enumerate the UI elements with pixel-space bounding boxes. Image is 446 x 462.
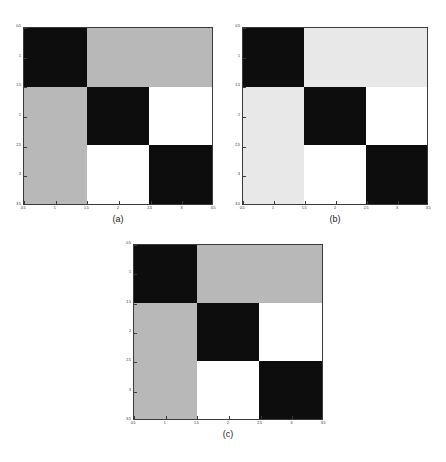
heatmap-cell-a-r3c2 xyxy=(87,145,150,204)
heatmap-cell-c-r1c3 xyxy=(259,245,322,303)
ytick-a-3 xyxy=(24,117,27,118)
ytick-label-b-2: 1.5 xyxy=(232,85,240,89)
ytick-label-b-0: 0.5 xyxy=(232,25,240,29)
ytick-c-1 xyxy=(134,274,137,275)
axes-b xyxy=(242,27,428,205)
ytick-label-c-0: 0.5 xyxy=(123,242,131,246)
xtick-b-4 xyxy=(367,201,368,204)
heatmap-cell-b-r3c3 xyxy=(366,145,427,204)
heatmap-cell-a-r2c1 xyxy=(24,87,87,146)
heatmap-grid-b xyxy=(243,28,427,204)
figure-canvas: (a) 0.511.522.533.50.511.522.533.5 (b) 0… xyxy=(0,0,446,462)
ytick-label-c-3: 2 xyxy=(123,330,131,334)
ytick-label-a-0: 0.5 xyxy=(13,25,21,29)
ytick-label-c-5: 3 xyxy=(123,389,131,393)
ytick-label-a-3: 2 xyxy=(13,114,21,118)
heatmap-cell-a-r2c2 xyxy=(87,87,150,146)
caption-c: (c) xyxy=(133,430,323,439)
heatmap-cell-c-r3c2 xyxy=(197,361,260,419)
heatmap-cell-c-r1c1 xyxy=(134,245,197,303)
heatmap-cell-a-r1c1 xyxy=(24,28,87,87)
xtick-label-a-6: 3.5 xyxy=(211,207,216,211)
ytick-b-3 xyxy=(243,117,246,118)
xtick-label-c-3: 2 xyxy=(227,422,229,426)
ytick-b-0 xyxy=(243,28,246,29)
xtick-label-c-2: 1.5 xyxy=(194,422,199,426)
ytick-a-4 xyxy=(24,147,27,148)
xtick-b-3 xyxy=(336,201,337,204)
heatmap-grid-a xyxy=(24,28,212,204)
xtick-c-2 xyxy=(197,416,198,419)
ytick-c-2 xyxy=(134,304,137,305)
heatmap-cell-b-r3c1 xyxy=(243,145,304,204)
xtick-label-b-0: 0.5 xyxy=(240,207,245,211)
xtick-c-3 xyxy=(229,416,230,419)
ytick-label-b-3: 2 xyxy=(232,114,240,118)
heatmap-cell-c-r1c2 xyxy=(197,245,260,303)
heatmap-cell-c-r2c1 xyxy=(134,303,197,361)
xtick-label-a-2: 1.5 xyxy=(84,207,89,211)
xtick-label-a-4: 2.5 xyxy=(147,207,152,211)
xtick-b-1 xyxy=(274,201,275,204)
xtick-label-a-3: 2 xyxy=(117,207,119,211)
ytick-label-c-1: 1 xyxy=(123,272,131,276)
ytick-c-0 xyxy=(134,245,137,246)
ytick-b-5 xyxy=(243,176,246,177)
xtick-label-a-5: 3 xyxy=(180,207,182,211)
xtick-label-b-4: 2.5 xyxy=(364,207,369,211)
ytick-label-b-4: 2.5 xyxy=(232,144,240,148)
heatmap-cell-b-r2c3 xyxy=(366,87,427,146)
xtick-label-a-1: 1 xyxy=(54,207,56,211)
heatmap-cell-b-r3c2 xyxy=(304,145,365,204)
xtick-a-0 xyxy=(24,201,25,204)
axes-a xyxy=(23,27,213,205)
xtick-a-3 xyxy=(119,201,120,204)
xtick-label-c-4: 2.5 xyxy=(257,422,262,426)
xtick-b-2 xyxy=(305,201,306,204)
heatmap-grid-c xyxy=(134,245,322,419)
caption-b: (b) xyxy=(242,215,428,224)
heatmap-cell-b-r2c1 xyxy=(243,87,304,146)
heatmap-cell-a-r1c2 xyxy=(87,28,150,87)
xtick-a-4 xyxy=(151,201,152,204)
xtick-label-c-6: 3.5 xyxy=(321,422,326,426)
heatmap-cell-a-r2c3 xyxy=(149,87,212,146)
heatmap-cell-c-r3c3 xyxy=(259,361,322,419)
xtick-c-0 xyxy=(134,416,135,419)
ytick-label-a-5: 3 xyxy=(13,174,21,178)
ytick-label-a-4: 2.5 xyxy=(13,144,21,148)
caption-a: (a) xyxy=(23,215,213,224)
heatmap-cell-c-r2c3 xyxy=(259,303,322,361)
ytick-a-2 xyxy=(24,87,27,88)
ytick-label-a-6: 3.5 xyxy=(13,203,21,207)
xtick-label-c-0: 0.5 xyxy=(131,422,136,426)
heatmap-cell-c-r3c1 xyxy=(134,361,197,419)
ytick-c-4 xyxy=(134,362,137,363)
ytick-a-1 xyxy=(24,58,27,59)
ytick-b-1 xyxy=(243,58,246,59)
ytick-a-0 xyxy=(24,28,27,29)
heatmap-cell-a-r3c3 xyxy=(149,145,212,204)
xtick-label-b-2: 1.5 xyxy=(302,207,307,211)
heatmap-cell-b-r1c1 xyxy=(243,28,304,87)
heatmap-cell-a-r3c1 xyxy=(24,145,87,204)
ytick-label-c-6: 3.5 xyxy=(123,418,131,422)
ytick-a-5 xyxy=(24,176,27,177)
axes-c xyxy=(133,244,323,420)
ytick-label-c-2: 1.5 xyxy=(123,301,131,305)
heatmap-cell-c-r2c2 xyxy=(197,303,260,361)
xtick-label-a-0: 0.5 xyxy=(21,207,26,211)
ytick-label-a-2: 1.5 xyxy=(13,85,21,89)
ytick-c-3 xyxy=(134,333,137,334)
xtick-b-0 xyxy=(243,201,244,204)
xtick-label-b-3: 2 xyxy=(334,207,336,211)
ytick-c-5 xyxy=(134,392,137,393)
xtick-label-b-6: 3.5 xyxy=(426,207,431,211)
xtick-c-5 xyxy=(292,416,293,419)
xtick-a-5 xyxy=(182,201,183,204)
xtick-label-b-5: 3 xyxy=(396,207,398,211)
ytick-label-c-4: 2.5 xyxy=(123,360,131,364)
heatmap-cell-a-r1c3 xyxy=(149,28,212,87)
xtick-c-4 xyxy=(261,416,262,419)
xtick-a-1 xyxy=(56,201,57,204)
